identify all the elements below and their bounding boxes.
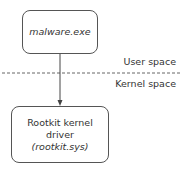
kernel-space-label: Kernel space: [115, 78, 176, 89]
driver-label-filename: (rootkit.sys): [31, 141, 88, 153]
malware-exe-box: malware.exe: [22, 10, 98, 54]
driver-label-line1: Rootkit kernel: [27, 117, 93, 129]
user-space-label: User space: [123, 56, 176, 67]
rootkit-driver-box: Rootkit kernel driver (rootkit.sys): [11, 106, 109, 163]
malware-exe-label: malware.exe: [29, 26, 90, 38]
driver-label-line2: driver: [46, 129, 74, 141]
